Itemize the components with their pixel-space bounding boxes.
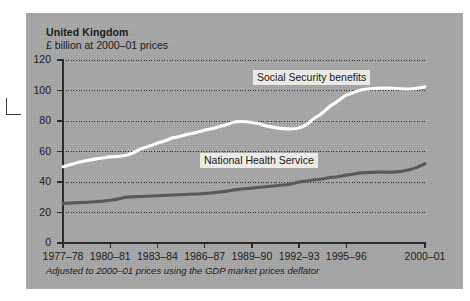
x-tick-label-4: 1989–90	[226, 250, 278, 262]
series-label-national-health-service: National Health Service	[200, 153, 318, 168]
plot-area	[26, 13, 463, 289]
series-label-social-security-benefits: Social Security benefits	[253, 70, 370, 85]
crop-registration-mark	[6, 98, 21, 115]
x-tick-label-3: 1986–87	[179, 250, 231, 262]
y-tick-label-40: 40	[25, 175, 51, 187]
y-tick-label-80: 80	[25, 114, 51, 126]
y-tick-label-100: 100	[25, 84, 51, 96]
x-tick-label-7: 2000–01	[399, 250, 451, 262]
x-tick-label-0: 1977–78	[37, 250, 89, 262]
chart-screenshot: United Kingdom £ billion at 2000–01 pric…	[0, 0, 470, 301]
chart-panel: United Kingdom £ billion at 2000–01 pric…	[26, 13, 463, 289]
x-tick-label-6: 1995–96	[320, 250, 372, 262]
y-tick-label-0: 0	[25, 236, 51, 248]
y-tick-label-120: 120	[25, 53, 51, 65]
x-tick-label-5: 1992–93	[273, 250, 325, 262]
chart-footnote: Adjusted to 2000–01 prices using the GDP…	[46, 265, 319, 276]
y-tick-label-60: 60	[25, 145, 51, 157]
series-line-national-health-service	[63, 164, 425, 204]
y-tick-label-20: 20	[25, 206, 51, 218]
x-tick-label-2: 1983–84	[131, 250, 183, 262]
x-tick-label-1: 1980–81	[84, 250, 136, 262]
